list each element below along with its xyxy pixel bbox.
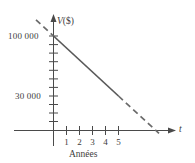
x-axis-name: Années: [69, 150, 98, 160]
y-tick-label-100000: 100 000: [8, 32, 39, 41]
y-axis-title: V($): [57, 17, 74, 27]
x-tick-label-2: 2: [74, 138, 86, 147]
y-tick-label-30000: 30 000: [15, 92, 41, 101]
x-axis-arrowhead: [168, 128, 176, 134]
x-axis-title: t: [179, 125, 182, 135]
depreciation-line-chart-figure: V($) t 100 000 30 000 1 2 3 4 5 Années: [0, 0, 195, 163]
y-axis-arrowhead: [51, 14, 57, 22]
x-tick-label-1: 1: [61, 138, 73, 147]
x-tick-label-5: 5: [113, 138, 125, 147]
trend-line-solid: [54, 36, 119, 96]
y-axis-title-unit: ($): [63, 16, 74, 26]
trend-line-dashed-right: [119, 96, 160, 133]
x-tick-label-3: 3: [87, 138, 99, 147]
x-tick-label-4: 4: [100, 138, 112, 147]
